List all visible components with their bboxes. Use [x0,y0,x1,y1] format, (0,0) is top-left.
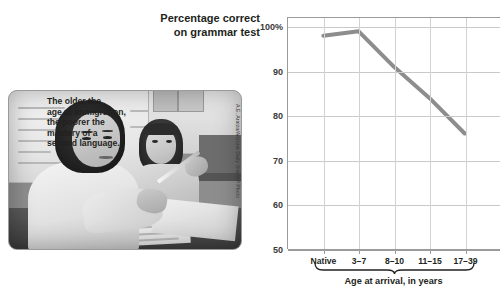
y-axis-tick-label: 90 [273,67,283,77]
x-axis-tick [395,249,396,254]
y-axis-tick-label: 70 [273,156,283,166]
chart-title: Percentage correct on grammar test [150,12,260,39]
chart-annotation-line: age at immigration, [47,107,139,118]
data-series-line [288,18,500,249]
gridline-horizontal [288,205,500,206]
x-axis-label: Age at arrival, in years [287,276,500,286]
gridline-vertical [466,18,467,249]
plot-area: 100%9080706050Native3–78–1011–1517–39 [287,17,500,249]
gridline-vertical [324,18,325,249]
x-axis-tick [324,249,325,254]
x-axis-tick [466,249,467,254]
x-axis-tick [359,249,360,254]
y-axis-tick-label: 50 [273,245,283,255]
gridline-vertical [395,18,396,249]
age-range-brace [313,262,476,274]
y-axis-tick-label: 60 [273,200,283,210]
gridline-horizontal [288,27,500,28]
chart-title-line-1: Percentage correct [150,12,260,26]
chart-annotation: The older theage at immigration,the poor… [47,96,139,149]
gridline-horizontal [288,161,500,162]
gridline-vertical [359,18,360,249]
chart-annotation-line: second language. [47,138,139,149]
chart-annotation-line: mastery of a [47,128,139,139]
y-axis-tick-label: 80 [273,111,283,121]
series-polyline [323,31,464,133]
gridline-horizontal [288,72,500,73]
gridline-horizontal [288,116,500,117]
chart-annotation-line: The older the [47,96,139,107]
photo-credit: A.E. Araiza/Arizona Daily Star/AP Photo [235,104,241,198]
chart-annotation-line: the poorer the [47,117,139,128]
x-axis-tick [430,249,431,254]
line-chart: 100%9080706050Native3–78–1011–1517–39 [287,17,500,249]
y-axis-tick-label: 100% [260,22,283,32]
gridline-vertical [430,18,431,249]
chart-title-line-2: on grammar test [150,26,260,40]
